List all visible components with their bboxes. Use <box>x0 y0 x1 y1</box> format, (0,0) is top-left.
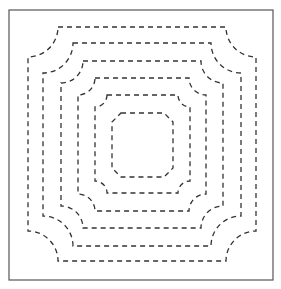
contour-line-6 <box>112 113 173 177</box>
diagram-frame <box>9 10 273 280</box>
contour-line-2 <box>43 43 241 246</box>
contour-line-5 <box>95 95 190 193</box>
contour-line-1 <box>28 27 256 261</box>
contour-diagram <box>0 0 281 289</box>
contour-line-4 <box>78 78 206 211</box>
contour-group <box>28 27 256 261</box>
contour-line-3 <box>61 61 223 228</box>
